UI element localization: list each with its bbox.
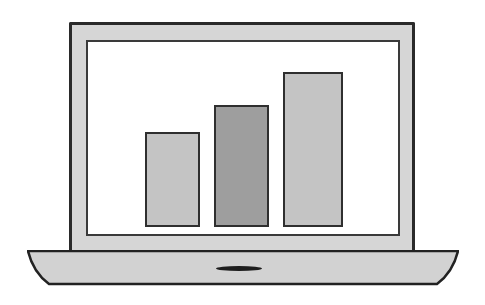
chart-bar-3 [283,72,343,227]
chart-bar-2 [214,105,269,227]
laptop-illustration [0,0,485,305]
trackpad-notch [216,266,262,271]
chart-bar-1 [145,132,200,227]
